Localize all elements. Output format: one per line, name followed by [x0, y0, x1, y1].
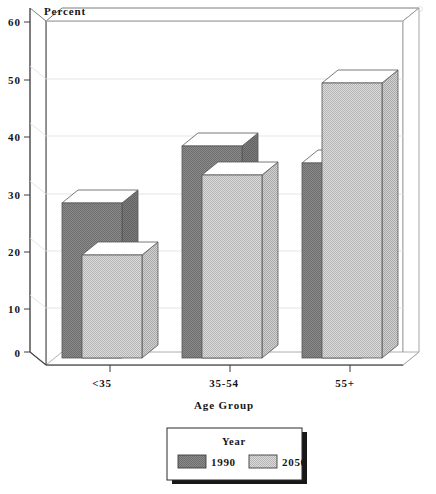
x-axis-category-labels: <35 35-54 55+	[92, 377, 355, 389]
y-axis-ticks	[24, 22, 30, 352]
y-tick-label-40: 40	[8, 131, 21, 143]
legend-swatch-1990	[178, 455, 206, 468]
category-label-55plus: 55+	[335, 377, 355, 389]
y-tick-label-50: 50	[8, 74, 21, 86]
legend-title: Year	[222, 436, 246, 447]
category-label-35-54: 35-54	[209, 377, 239, 389]
legend-label-2050: 2050	[282, 456, 307, 468]
y-tick-label-0: 0	[15, 347, 22, 359]
legend-label-1990: 1990	[211, 456, 236, 468]
chart-container: 60 50 40 30 20 10 0 Percent	[0, 0, 436, 494]
y-axis-tick-labels: 60 50 40 30 20 10 0	[8, 16, 21, 359]
legend: Year 1990 2050	[167, 428, 307, 484]
x-axis-title: Age Group	[194, 399, 254, 411]
bar-chart-figure: 60 50 40 30 20 10 0 Percent	[0, 0, 436, 494]
y-axis-title: Percent	[44, 5, 86, 17]
legend-swatch-2050	[249, 455, 277, 468]
bar-2050-55plus	[322, 70, 398, 358]
bar-2050-35-54	[202, 162, 278, 358]
y-tick-label-60: 60	[8, 16, 21, 28]
y-tick-label-10: 10	[8, 303, 21, 315]
y-tick-label-30: 30	[8, 189, 21, 201]
bar-2050-lt35	[82, 242, 158, 358]
y-tick-label-20: 20	[8, 246, 21, 258]
category-label-lt35: <35	[92, 377, 112, 389]
scan-artifact-speck	[418, 7, 422, 11]
x-axis-ticks	[110, 365, 350, 372]
